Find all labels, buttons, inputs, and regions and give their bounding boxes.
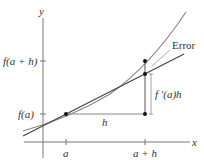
h-label: h: [102, 116, 108, 128]
y-axis-label: y: [38, 5, 44, 17]
curve-point: [143, 59, 147, 63]
function-curve: [23, 12, 186, 131]
error-label: Error: [172, 39, 196, 51]
y-tick-label-fah: f(a + h): [3, 55, 38, 68]
y-tick-label-fa: f(a): [18, 108, 34, 121]
linear-approximation-diagram: y x a a + h f(a) f(a + h) Error h f ′(a)…: [0, 0, 204, 160]
x-axis-label: x: [191, 136, 197, 148]
x-tick-label-a: a: [63, 147, 69, 159]
rise-label: f ′(a)h: [155, 88, 182, 101]
tangent-line-point: [143, 72, 147, 76]
tangent-point: [64, 112, 68, 116]
corner-point: [143, 112, 147, 116]
x-tick-label-a-plus-h: a + h: [133, 147, 157, 159]
